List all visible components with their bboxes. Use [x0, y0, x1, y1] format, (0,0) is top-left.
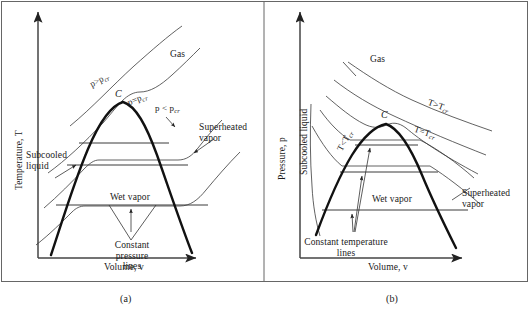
panel-b-ct-leader-3	[352, 214, 353, 232]
panel-a-label-superheated-vapor: Superheated vapor	[199, 122, 247, 143]
panel-a-saturation-dome	[51, 102, 192, 255]
panel-b-isotherm-below-critical-2	[312, 126, 480, 204]
panel-b-critical-point-marker	[385, 123, 387, 125]
panel-b-label-wet-vapor: Wet vapor	[372, 194, 412, 205]
panel-b-label-gas: Gas	[370, 54, 385, 65]
panel-a-critical-point-label: C	[115, 88, 122, 99]
panel-a-plt-leader	[166, 117, 175, 127]
panel-a-label-gas: Gas	[170, 49, 185, 60]
panel-b-label-subcooled-liquid: Subcooled liquid	[299, 109, 310, 175]
panel-a-label-subcooled-liquid: Subcooled liquid	[26, 150, 67, 171]
panel-a-caption: (a)	[120, 293, 131, 304]
panel-b-ct-leader-2	[354, 176, 362, 232]
figure-container: Temperature, T Volume, v (a) p>pcr p=pcr…	[0, 0, 529, 317]
panel-b-y-axis-label: Pressure, p	[277, 137, 288, 180]
panel-b-isotherm-above-critical-2	[334, 80, 486, 155]
panel-b-x-axis-label: Volume, v	[368, 262, 408, 273]
panel-b-label-constant-temperature-lines: Constant temperature lines	[291, 237, 401, 258]
panel-a-label-p-less-pcr: p < pcr	[155, 103, 180, 113]
panel-a-label-constant-pressure-lines: Constant pressure lines	[104, 240, 160, 272]
figure-border	[2, 2, 528, 282]
panel-b-isotherm-above-critical	[348, 62, 492, 131]
panel-a-constant-pressure-leader	[109, 205, 156, 240]
panel-a-y-axis-label: Temperature, T	[14, 130, 25, 190]
panel-b-label-superheated-vapor: Superheated vapor	[462, 188, 510, 209]
panel-a-critical-point-marker	[122, 101, 124, 103]
panel-b-gas-leader	[343, 62, 356, 76]
panel-b-critical-point-label: C	[381, 109, 388, 120]
panel-a-label-wet-vapor: Wet vapor	[110, 192, 150, 203]
figure-vector-layer	[0, 0, 529, 317]
panel-b-ct-leader-1	[355, 148, 370, 232]
panel-b-subcooled-curve	[310, 104, 320, 236]
panel-b-caption: (b)	[386, 293, 398, 304]
panel-b-plot	[300, 12, 492, 258]
